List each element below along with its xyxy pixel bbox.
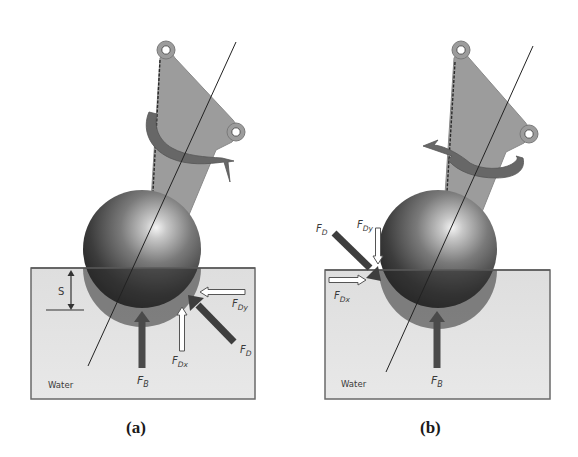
panel-a: S FB FDx FDy FD [31,41,255,437]
figure-canvas: S FB FDx FDy FD [0,0,578,457]
depth-label: S [58,286,64,297]
panel-b: FB FD FDy FDx Water (b) [316,41,550,437]
drag-force-label: FD [316,223,328,237]
drag-y-component-label: FDy [357,219,374,233]
panel-caption: (a) [126,418,146,437]
panel-caption: (b) [420,418,441,437]
water-label: Water [341,379,367,389]
water-label: Water [48,380,74,390]
